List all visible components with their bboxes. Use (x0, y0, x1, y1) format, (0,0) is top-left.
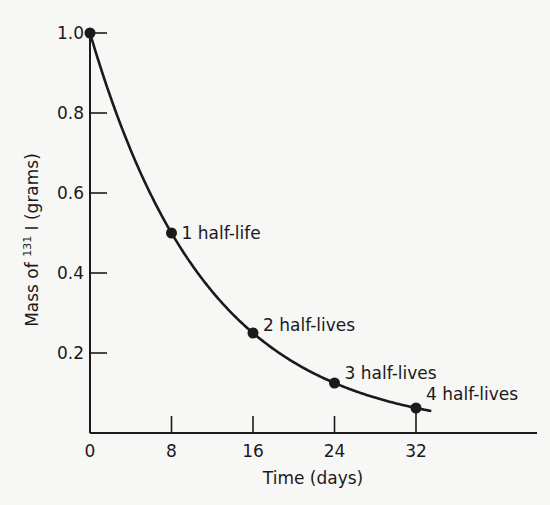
x-tick-label: 16 (242, 441, 264, 461)
chart-canvas: 0.20.40.60.81.008162432 1 half-life2 hal… (0, 0, 550, 505)
x-tick-label: 32 (405, 441, 427, 461)
data-points (85, 28, 422, 417)
annotation-label: 1 half-life (182, 223, 261, 243)
y-axis-title: Mass of 131 I (grams) (21, 153, 42, 327)
y-tick-label: 1.0 (57, 23, 84, 43)
y-tick-label: 0.2 (57, 343, 84, 363)
data-point (166, 228, 177, 239)
x-tick-label: 24 (324, 441, 346, 461)
data-point (248, 328, 259, 339)
y-axis-title-suffix: I (grams) (22, 153, 42, 236)
y-axis-title-superscript: 131 (21, 236, 34, 257)
annotation-label: 4 half-lives (426, 384, 518, 404)
y-axis-title-prefix: Mass of (22, 257, 42, 327)
y-tick-label: 0.6 (57, 183, 84, 203)
annotation-label: 2 half-lives (263, 315, 355, 335)
data-point (329, 378, 340, 389)
data-point (85, 28, 96, 39)
x-tick-label: 0 (85, 441, 96, 461)
y-tick-label: 0.8 (57, 103, 84, 123)
half-life-chart: 0.20.40.60.81.008162432 1 half-life2 hal… (0, 0, 550, 505)
x-axis-title: Time (days) (262, 468, 363, 488)
y-tick-label: 0.4 (57, 263, 84, 283)
annotation-label: 3 half-lives (345, 363, 437, 383)
x-tick-label: 8 (166, 441, 177, 461)
